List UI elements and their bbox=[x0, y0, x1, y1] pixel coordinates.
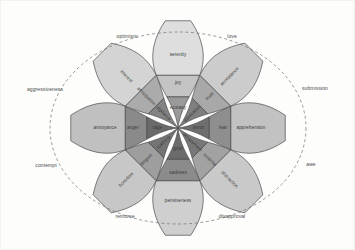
dyad-label-aggressiveness: aggressiveness bbox=[27, 86, 64, 92]
emotion-label-annoyance: annoyance bbox=[93, 125, 117, 130]
dyad-label-disapproval: disapproval bbox=[219, 213, 246, 219]
emotion-label-terror: terror bbox=[193, 125, 205, 130]
emotion-label-fear: fear bbox=[219, 125, 228, 130]
dyad-label-awe: awe bbox=[306, 161, 316, 167]
emotion-label-ecstasy: ecstasy bbox=[170, 105, 187, 110]
emotion-label-grief: grief bbox=[173, 146, 183, 151]
petal-segment-serenity bbox=[153, 21, 203, 76]
petal-segment-rage bbox=[147, 117, 178, 139]
emotion-label-joy: joy bbox=[174, 80, 182, 85]
emotion-label-anger: anger bbox=[127, 125, 140, 130]
emotion-label-serenity: serenity bbox=[170, 52, 187, 57]
petal-segment-pensiveness bbox=[153, 181, 203, 236]
wheel-svg: ecstasyjoyserenityadmirationtrustaccepta… bbox=[1, 1, 355, 250]
plutchik-wheel-diagram: ecstasyjoyserenityadmirationtrustaccepta… bbox=[0, 0, 355, 250]
emotion-label-rage: rage bbox=[153, 125, 163, 130]
dyad-label-love: love bbox=[227, 33, 237, 39]
dyad-label-remorse: remorse bbox=[115, 213, 134, 219]
emotion-label-pensiveness: pensiveness bbox=[165, 198, 192, 203]
dyad-label-optimism: optimism bbox=[117, 33, 138, 39]
dyad-label-submission: submission bbox=[302, 85, 328, 91]
emotion-label-apprehension: apprehension bbox=[237, 125, 266, 130]
emotion-label-sadness: sadness bbox=[169, 170, 187, 175]
dyad-label-contempt: contempt bbox=[35, 162, 57, 168]
